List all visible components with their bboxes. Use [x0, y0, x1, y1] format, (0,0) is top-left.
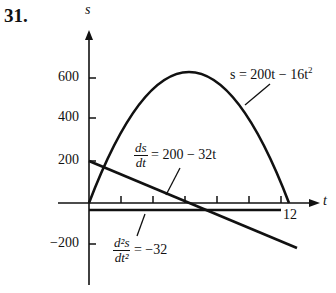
t-axis-label: t: [323, 193, 327, 209]
t-axis-arrow: [309, 199, 320, 207]
y-label-200: 200: [58, 152, 79, 168]
y-label-neg200: −200: [50, 235, 79, 251]
problem-number: 31.: [4, 5, 28, 27]
y-label-400: 400: [58, 109, 79, 125]
s-curve: [89, 72, 289, 203]
ds-dt-formula: dsdt = 200 − 32t: [134, 141, 216, 170]
x-label-12: 12: [283, 207, 297, 223]
d2s-fraction: d²sdt²: [113, 236, 130, 265]
d2s-leader: [137, 214, 145, 236]
s-axis-label: s: [85, 2, 90, 18]
ds-leader: [166, 168, 180, 195]
ds-dt-fraction: dsdt: [134, 141, 148, 170]
figure: 31. s t 600 400 200 −200 12 s = 200t − 1…: [0, 0, 336, 293]
s-leader: [245, 84, 270, 105]
s-axis-arrow: [85, 30, 93, 40]
x-ticks: [121, 196, 281, 203]
s-formula: s = 200t − 16t2: [230, 65, 313, 83]
d2s-formula: d²sdt² = −32: [113, 236, 167, 265]
y-label-600: 600: [58, 69, 79, 85]
